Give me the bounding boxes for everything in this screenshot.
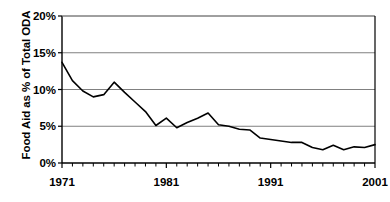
plot-area xyxy=(0,0,390,202)
x-tick-label: 2001 xyxy=(362,175,388,189)
x-axis-tick-labels: 1971198119912001 xyxy=(0,175,390,193)
gridlines xyxy=(62,16,375,126)
x-tick-label: 1971 xyxy=(49,175,75,189)
x-tick-label: 1981 xyxy=(154,175,180,189)
chart-figure: Food Aid as % of Total ODA 0%5%10%15%20%… xyxy=(0,0,390,202)
data-series-line xyxy=(62,62,375,149)
x-tick-label: 1991 xyxy=(258,175,284,189)
